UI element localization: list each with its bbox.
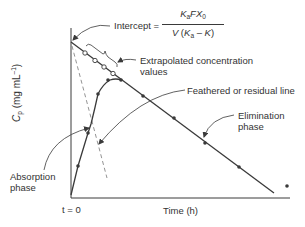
elimination-arrow bbox=[204, 115, 234, 137]
intercept-numerator: KaFX0 bbox=[163, 8, 223, 20]
absorption-arrow bbox=[44, 128, 89, 170]
extrapolated-label: Extrapolated concentration values bbox=[140, 55, 253, 77]
observed-point bbox=[285, 184, 289, 188]
feathered-label: Feathered or residual line bbox=[187, 85, 295, 96]
intercept-denominator: V (Ka – K) bbox=[160, 27, 226, 39]
fraction-bar bbox=[162, 24, 224, 25]
extrapolated-point bbox=[93, 58, 97, 62]
extrapolated-bracket bbox=[86, 44, 117, 67]
extrapolated-point bbox=[83, 51, 87, 55]
elimination-label: Elimination phase bbox=[238, 110, 284, 132]
x-axis-label: Time (h) bbox=[163, 205, 198, 216]
intercept-label: Intercept = bbox=[114, 20, 159, 31]
observed-point bbox=[141, 94, 145, 98]
intercept-arrow bbox=[73, 25, 110, 40]
observed-point bbox=[106, 78, 110, 82]
observed-point bbox=[172, 116, 176, 120]
extrapolated-arrow bbox=[118, 59, 136, 62]
observed-point bbox=[237, 165, 241, 169]
observed-point bbox=[86, 131, 90, 135]
extrapolated-point bbox=[111, 71, 115, 75]
observed-point bbox=[119, 78, 123, 82]
observed-point bbox=[203, 141, 207, 145]
y-axis-label: Cp (mg mL–1) bbox=[8, 64, 25, 122]
observed-point bbox=[96, 92, 100, 96]
origin-label: t = 0 bbox=[62, 204, 81, 215]
observed-point bbox=[76, 164, 80, 168]
intercept-prefix: Intercept = bbox=[114, 20, 159, 31]
extrapolated-point bbox=[102, 65, 106, 69]
absorption-label: Absorption phase bbox=[10, 171, 55, 193]
